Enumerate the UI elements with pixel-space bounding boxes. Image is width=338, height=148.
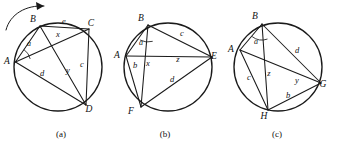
figure-c-circle (234, 23, 322, 111)
figure-c-label-d: d (295, 45, 300, 55)
figure-b-label-x: x (145, 58, 150, 68)
figure-a-angle-a: a (27, 39, 31, 48)
figure-b-chord-AB (126, 25, 148, 56)
figure-c-caption: (c) (272, 129, 282, 139)
geometry-diagram-svg: ABCDexcyda(a)ABEFczxbda(b)ABGHdczyba(c) (0, 0, 338, 148)
figure-c-label-b: b (286, 90, 290, 100)
figure-a-chord-BD (40, 26, 86, 105)
figure-a-caption: (a) (56, 129, 66, 139)
figure-c-label-c: c (247, 72, 251, 82)
figure-a-rotation-arrowhead (36, 2, 44, 10)
figure-b-angle-a: a (139, 38, 143, 47)
figure-b-chord-EF (141, 57, 212, 107)
figure-b-chord-AE (126, 56, 212, 57)
figure-c-chord-BG (262, 24, 321, 83)
figure-a-chord-AD (16, 62, 87, 105)
figure-c-vertex-label-B: B (252, 11, 258, 21)
figure-a-label-d: d (40, 68, 45, 78)
figure-a-chord-BC (40, 26, 89, 29)
figure-a-label-c: c (80, 59, 84, 69)
figure-b-label-d: d (170, 74, 175, 84)
figure-b-label-c: c (180, 28, 184, 38)
figure-c-chord-GH (268, 83, 321, 110)
figure-a-vertex-label-C: C (88, 18, 95, 28)
geometry-figure-board: ABCDexcyda(a)ABEFczxbda(b)ABGHdczyba(c) (0, 0, 338, 148)
figure-a-label-y: y (65, 65, 70, 75)
figure-c-chord-BH (262, 24, 268, 110)
figure-b-vertex-label-E: E (210, 51, 217, 61)
figure-b-label-b: b (133, 60, 137, 70)
figure-c-vertex-label-G: G (320, 79, 327, 89)
figure-a-vertex-label-A: A (3, 56, 10, 66)
figure-b-label-z: z (175, 54, 180, 64)
figure-c-chord-AB (240, 24, 262, 50)
figure-c-label-y: y (294, 75, 299, 85)
figure-b-vertex-label-A: A (113, 50, 120, 60)
figure-c-vertex-label-H: H (260, 111, 269, 121)
figure-c-label-z: z (266, 68, 271, 78)
figure-a-vertex-label-B: B (30, 14, 36, 24)
figure-a-vertex-label-D: D (85, 104, 93, 114)
figure-c-angle-a: a (254, 37, 258, 46)
figure-b-circle (124, 23, 212, 111)
figure-b-caption: (b) (160, 129, 171, 139)
figure-c-vertex-label-A: A (227, 44, 234, 54)
figure-a-chord-CD (86, 29, 89, 105)
figure-c-chord-AG (240, 50, 321, 83)
figure-c-chord-AH (240, 50, 268, 110)
figure-b-vertex-label-F: F (127, 106, 134, 116)
figure-a-rotation-arrow (6, 6, 44, 30)
figure-b-vertex-label-B: B (138, 13, 144, 23)
figure-a-label-e: e (62, 16, 66, 26)
figure-a-label-x: x (55, 29, 60, 39)
